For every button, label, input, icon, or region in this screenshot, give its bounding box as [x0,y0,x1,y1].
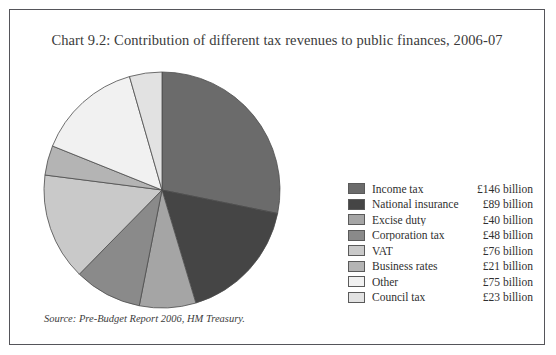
legend-item-label: VAT [372,245,460,257]
legend-item-label: Corporation tax [372,229,460,241]
source-note: Source: Pre-Budget Report 2006, HM Treas… [44,313,245,324]
legend-item: Corporation tax£48 billion [348,228,533,244]
legend-item: Excise duty£40 billion [348,212,533,228]
legend-swatch-icon [348,245,365,256]
pie-slice [162,72,280,213]
legend-item: Council tax£23 billion [348,290,533,306]
legend-item-value: £76 billion [460,245,533,257]
pie-chart [32,68,302,318]
figure-frame: Chart 9.2: Contribution of different tax… [9,9,545,345]
page-title: Chart 9.2: Contribution of different tax… [10,32,544,49]
legend-swatch-icon [348,276,365,287]
legend-item-value: £89 billion [460,198,533,210]
legend-item-label: Business rates [372,260,460,272]
chart-page: Chart 9.2: Contribution of different tax… [0,0,556,355]
legend-swatch-icon [348,183,365,194]
legend-item-value: £40 billion [460,214,533,226]
legend-swatch-icon [348,292,365,303]
legend-item-value: £21 billion [460,260,533,272]
legend-item-value: £146 billion [460,183,533,195]
legend-item: Other£75 billion [348,274,533,290]
pie-chart-svg [32,68,302,318]
legend-item-value: £23 billion [460,291,533,303]
legend-item-label: National insurance [372,198,460,210]
legend-item-label: Council tax [372,291,460,303]
legend-swatch-icon [348,214,365,225]
legend-item: Income tax£146 billion [348,181,533,197]
legend-item-label: Income tax [372,183,460,195]
legend-swatch-icon [348,230,365,241]
legend-item: National insurance£89 billion [348,197,533,213]
legend-item-label: Excise duty [372,214,460,226]
legend-swatch-icon [348,199,365,210]
legend-item: VAT£76 billion [348,243,533,259]
legend-swatch-icon [348,261,365,272]
legend-item: Business rates£21 billion [348,259,533,275]
chart-legend: Income tax£146 billionNational insurance… [348,181,533,305]
legend-item-value: £48 billion [460,229,533,241]
legend-item-label: Other [372,276,460,288]
legend-item-value: £75 billion [460,276,533,288]
